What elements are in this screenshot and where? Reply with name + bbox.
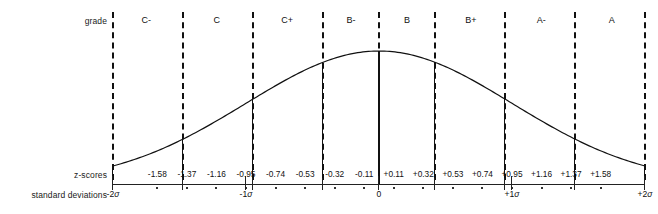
grading-curve-figure: grade z-scores standard deviations C-CC+… <box>0 0 658 214</box>
bell-curve <box>0 0 658 214</box>
